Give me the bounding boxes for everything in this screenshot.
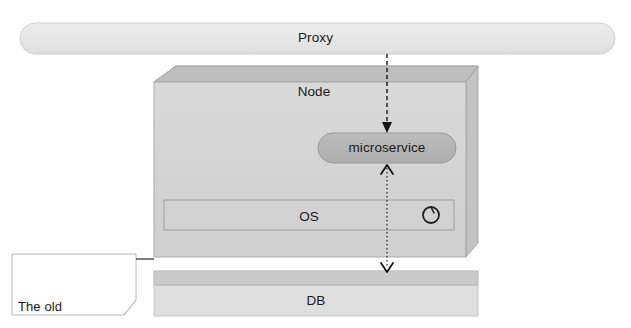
- node-front-face: [154, 82, 466, 257]
- node-top-face-fill: [154, 66, 478, 82]
- callout-text: The old release is removed: [18, 266, 118, 328]
- callout-line-1: The old: [18, 299, 118, 316]
- diagram-canvas: Proxy Node microservice OS DB The old re…: [0, 0, 631, 328]
- proxy-label: Proxy: [0, 30, 631, 46]
- os-label: OS: [164, 209, 454, 225]
- db-top-strip: [154, 271, 478, 285]
- node-label: Node: [154, 84, 474, 100]
- microservice-label: microservice: [318, 140, 456, 156]
- db-label: DB: [154, 293, 478, 309]
